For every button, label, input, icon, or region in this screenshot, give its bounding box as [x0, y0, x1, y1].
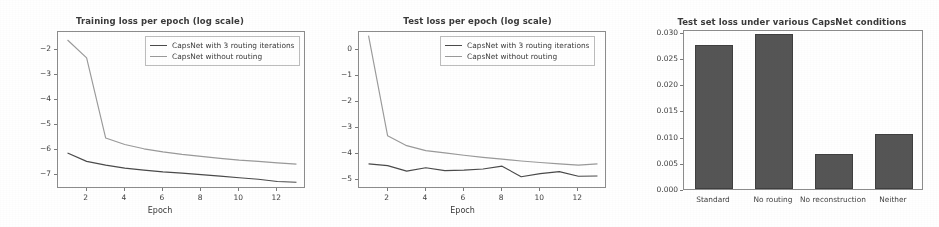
legend-line-swatch [150, 56, 167, 57]
y-tick-mark [54, 99, 57, 100]
x-tick-mark [539, 188, 540, 191]
y-tick-mark [680, 85, 683, 86]
legend-item-label: CapsNet with 3 routing iterations [172, 41, 294, 50]
x-tick-label: 2 [377, 193, 397, 202]
legend-item[interactable]: CapsNet without routing [445, 51, 589, 62]
x-tick-mark [501, 188, 502, 191]
x-tick-mark [463, 188, 464, 191]
series-line-0 [369, 164, 598, 177]
x-axis-label-test-loss: Epoch [290, 206, 635, 215]
chart-panel-training-loss: Training loss per epoch (log scale) −2−3… [0, 0, 320, 227]
legend-training-loss: CapsNet with 3 routing iterationsCapsNet… [145, 36, 300, 66]
x-tick-label: 2 [76, 193, 96, 202]
y-tick-mark [355, 75, 358, 76]
y-tick-label: 0.030 [638, 28, 678, 37]
y-tick-label: −3 [332, 122, 352, 131]
y-tick-label: −1 [332, 70, 352, 79]
y-tick-label: −2 [332, 96, 352, 105]
y-tick-label: −6 [31, 144, 51, 153]
x-tick-label: 6 [152, 193, 172, 202]
bar [815, 154, 853, 189]
y-tick-label: −7 [31, 169, 51, 178]
chart-panel-test-loss: Test loss per epoch (log scale) 0−1−2−3−… [320, 0, 635, 227]
y-tick-mark [680, 164, 683, 165]
x-tick-label: 10 [228, 193, 248, 202]
x-tick-label: 8 [190, 193, 210, 202]
legend-item-label: CapsNet without routing [172, 52, 262, 61]
y-tick-mark [680, 59, 683, 60]
y-tick-mark [54, 49, 57, 50]
y-tick-label: −4 [31, 94, 51, 103]
legend-item-label: CapsNet without routing [467, 52, 557, 61]
y-tick-label: 0.005 [638, 159, 678, 168]
y-tick-mark [355, 179, 358, 180]
y-tick-mark [355, 153, 358, 154]
x-tick-mark [238, 188, 239, 191]
y-tick-mark [355, 127, 358, 128]
legend-line-swatch [445, 45, 462, 46]
y-tick-label: −2 [31, 44, 51, 53]
bar-category-label: Neither [853, 195, 933, 204]
x-axis-label-training-loss: Epoch [0, 206, 320, 215]
x-tick-label: 12 [266, 193, 286, 202]
x-tick-mark [86, 188, 87, 191]
legend-item-label: CapsNet with 3 routing iterations [467, 41, 589, 50]
y-tick-mark [54, 149, 57, 150]
y-tick-label: 0.000 [638, 185, 678, 194]
x-tick-label: 6 [453, 193, 473, 202]
x-tick-label: 4 [114, 193, 134, 202]
legend-test-loss: CapsNet with 3 routing iterationsCapsNet… [440, 36, 595, 66]
y-tick-label: 0.015 [638, 106, 678, 115]
x-tick-mark [425, 188, 426, 191]
x-tick-label: 12 [567, 193, 587, 202]
bar [755, 34, 793, 189]
legend-item[interactable]: CapsNet with 3 routing iterations [445, 40, 589, 51]
x-tick-mark [387, 188, 388, 191]
bar [875, 134, 913, 189]
y-tick-mark [680, 138, 683, 139]
y-tick-label: 0 [332, 44, 352, 53]
y-tick-mark [54, 74, 57, 75]
legend-item[interactable]: CapsNet without routing [150, 51, 294, 62]
y-tick-label: 0.025 [638, 54, 678, 63]
y-tick-mark [680, 33, 683, 34]
y-tick-mark [680, 111, 683, 112]
x-tick-mark [276, 188, 277, 191]
x-tick-label: 8 [491, 193, 511, 202]
x-tick-mark [577, 188, 578, 191]
x-tick-mark [200, 188, 201, 191]
y-tick-mark [54, 174, 57, 175]
legend-line-swatch [445, 56, 462, 57]
y-tick-mark [54, 124, 57, 125]
x-tick-label: 10 [529, 193, 549, 202]
legend-item[interactable]: CapsNet with 3 routing iterations [150, 40, 294, 51]
chart-title-test-loss: Test loss per epoch (log scale) [320, 16, 635, 26]
y-tick-label: 0.020 [638, 80, 678, 89]
y-tick-label: 0.010 [638, 133, 678, 142]
x-tick-label: 4 [415, 193, 435, 202]
chart-title-training-loss: Training loss per epoch (log scale) [0, 16, 320, 26]
legend-line-swatch [150, 45, 167, 46]
y-tick-mark [355, 101, 358, 102]
bar [695, 45, 733, 189]
y-tick-mark [355, 49, 358, 50]
y-tick-label: −5 [31, 119, 51, 128]
y-tick-mark [680, 190, 683, 191]
chart-panel-conditions: Test set loss under various CapsNet cond… [635, 0, 939, 227]
series-line-0 [68, 153, 297, 182]
figure-row: Training loss per epoch (log scale) −2−3… [0, 0, 939, 227]
y-tick-label: −4 [332, 148, 352, 157]
y-tick-label: −3 [31, 69, 51, 78]
chart-title-conditions: Test set loss under various CapsNet cond… [645, 17, 939, 27]
y-tick-label: −5 [332, 174, 352, 183]
x-tick-mark [162, 188, 163, 191]
x-tick-mark [124, 188, 125, 191]
plot-area-conditions [683, 30, 923, 190]
